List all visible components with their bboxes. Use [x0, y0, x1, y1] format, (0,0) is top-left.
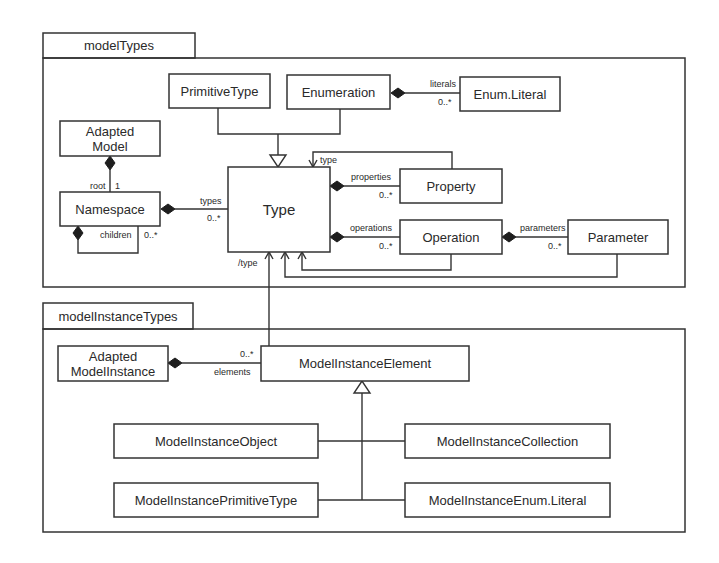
- association-parameter-type: [281, 252, 617, 277]
- composition-diamond-icon: [73, 226, 83, 240]
- class-model-instance-primitive-type[interactable]: ModelInstancePrimitiveType: [114, 483, 318, 517]
- class-enumeration[interactable]: Enumeration: [287, 75, 390, 109]
- association-types: types 0..*: [161, 196, 228, 223]
- class-model-instance-collection[interactable]: ModelInstanceCollection: [405, 424, 610, 458]
- generalization-to-model-instance-element: [318, 381, 405, 500]
- class-name-line-2: ModelInstance: [71, 364, 156, 379]
- class-model-instance-element[interactable]: ModelInstanceElement: [261, 346, 469, 381]
- package-label: modelTypes: [84, 38, 155, 53]
- role-label: type: [320, 155, 337, 165]
- multiplicity-label: 1: [115, 181, 120, 191]
- role-label: /type: [238, 258, 258, 268]
- class-model-instance-enum-literal[interactable]: ModelInstanceEnum.Literal: [405, 483, 610, 517]
- class-name: Enumeration: [302, 85, 376, 100]
- multiplicity-label: 0..*: [438, 97, 452, 107]
- class-name: ModelInstanceCollection: [437, 434, 579, 449]
- generalization-triangle-icon: [354, 381, 370, 393]
- multiplicity-label: 0..*: [144, 230, 158, 240]
- class-name: ModelInstanceEnum.Literal: [429, 493, 587, 508]
- composition-diamond-icon: [161, 204, 175, 214]
- class-model-instance-object[interactable]: ModelInstanceObject: [114, 424, 318, 458]
- class-primitive-type[interactable]: PrimitiveType: [169, 74, 270, 108]
- multiplicity-label: 0..*: [207, 213, 221, 223]
- class-operation[interactable]: Operation: [400, 220, 502, 254]
- generalization-triangle-icon: [270, 155, 286, 167]
- class-namespace[interactable]: Namespace: [60, 192, 160, 226]
- class-parameter[interactable]: Parameter: [568, 220, 668, 254]
- class-adapted-model[interactable]: Adapted Model: [60, 121, 160, 156]
- multiplicity-label: 0..*: [548, 241, 562, 251]
- class-name: Parameter: [588, 230, 649, 245]
- class-name-line-1: Adapted: [89, 349, 137, 364]
- class-name: Namespace: [75, 202, 144, 217]
- association-elements: 0..* elements: [168, 349, 261, 377]
- association-properties: properties 0..*: [330, 172, 400, 200]
- association-derived-type: /type: [238, 252, 273, 346]
- composition-diamond-icon: [105, 156, 115, 170]
- role-label: root: [90, 181, 106, 191]
- association-parameters: parameters 0..*: [502, 223, 568, 251]
- composition-diamond-icon: [391, 88, 405, 98]
- class-name: Operation: [422, 230, 479, 245]
- association-root: root 1: [90, 156, 120, 192]
- class-name: Type: [263, 201, 296, 218]
- class-adapted-model-instance[interactable]: Adapted ModelInstance: [58, 346, 168, 381]
- composition-diamond-icon: [330, 181, 344, 191]
- class-name-line-1: Adapted: [86, 124, 134, 139]
- class-type[interactable]: Type: [228, 167, 330, 252]
- class-name-line-2: Model: [92, 139, 128, 154]
- class-name: Property: [426, 179, 476, 194]
- class-name: ModelInstanceElement: [299, 356, 432, 371]
- class-name: PrimitiveType: [180, 84, 258, 99]
- uml-class-diagram: modelTypes modelInstanceTypes literals 0…: [0, 0, 719, 563]
- composition-diamond-icon: [330, 232, 344, 242]
- class-name: Enum.Literal: [474, 87, 547, 102]
- multiplicity-label: 0..*: [379, 241, 393, 251]
- role-label: operations: [350, 223, 393, 233]
- association-operations: operations 0..*: [330, 223, 400, 251]
- role-label: elements: [214, 367, 251, 377]
- role-label: parameters: [520, 223, 566, 233]
- composition-diamond-icon: [168, 358, 182, 368]
- multiplicity-label: 0..*: [240, 349, 254, 359]
- multiplicity-label: 0..*: [379, 190, 393, 200]
- role-label: literals: [430, 79, 457, 89]
- role-label: children: [100, 230, 132, 240]
- class-name: ModelInstancePrimitiveType: [135, 493, 298, 508]
- class-property[interactable]: Property: [400, 169, 502, 203]
- package-label: modelInstanceTypes: [58, 309, 178, 324]
- class-name: ModelInstanceObject: [155, 434, 278, 449]
- composition-diamond-icon: [502, 232, 516, 242]
- association-literals: literals 0..*: [391, 79, 460, 107]
- association-children: children 0..*: [73, 226, 158, 253]
- class-enum-literal[interactable]: Enum.Literal: [460, 77, 560, 111]
- role-label: types: [200, 196, 222, 206]
- role-label: properties: [351, 172, 392, 182]
